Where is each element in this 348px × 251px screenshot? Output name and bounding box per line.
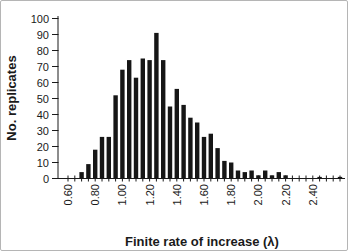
y-tick-label: 20 bbox=[37, 141, 49, 153]
histogram-bar bbox=[154, 33, 158, 179]
y-tick-label: 40 bbox=[37, 109, 49, 121]
histogram-bar bbox=[181, 105, 185, 179]
histogram-bar bbox=[168, 107, 172, 179]
histogram-bar bbox=[209, 134, 213, 179]
x-tick-label: 1.80 bbox=[225, 184, 237, 205]
histogram-bar bbox=[256, 175, 260, 178]
histogram-bar bbox=[277, 172, 281, 178]
x-axis-title: Finite rate of increase (λ) bbox=[125, 234, 279, 249]
histogram-bar bbox=[249, 171, 253, 179]
x-tick-label: 2.40 bbox=[307, 184, 319, 205]
y-tick-label: 70 bbox=[37, 61, 49, 73]
histogram-bar bbox=[270, 175, 274, 178]
histogram-bar bbox=[107, 137, 111, 179]
x-tick-label: 1.40 bbox=[171, 184, 183, 205]
y-tick-label: 50 bbox=[37, 93, 49, 105]
y-tick-label: 90 bbox=[37, 29, 49, 41]
histogram-bar bbox=[236, 171, 240, 179]
x-tick-label: 0.60 bbox=[62, 184, 74, 205]
x-tick-label: 2.00 bbox=[252, 184, 264, 205]
histogram-bar bbox=[141, 59, 145, 179]
histogram-figure: 01020304050607080901000.600.801.001.201.… bbox=[0, 0, 348, 251]
histogram-bar bbox=[100, 137, 104, 179]
histogram-bar bbox=[93, 150, 97, 179]
histogram-bar bbox=[338, 177, 342, 179]
x-tick-label: 1.60 bbox=[198, 184, 210, 205]
histogram-bar bbox=[263, 171, 267, 179]
y-tick-label: 0 bbox=[43, 173, 49, 185]
histogram-bar bbox=[188, 118, 192, 179]
histogram-bar bbox=[215, 148, 219, 178]
histogram-bar bbox=[243, 172, 247, 178]
histogram-bar bbox=[134, 78, 138, 179]
histogram-bar bbox=[79, 172, 83, 178]
y-axis-title: No. replicates bbox=[4, 55, 19, 140]
histogram-bar bbox=[161, 60, 165, 178]
histogram-bar bbox=[127, 60, 131, 178]
histogram-bar bbox=[229, 163, 233, 179]
histogram-bar bbox=[283, 175, 287, 178]
histogram-bar bbox=[222, 161, 226, 179]
x-tick-label: 0.80 bbox=[89, 184, 101, 205]
y-tick-label: 100 bbox=[31, 13, 49, 25]
histogram-bar bbox=[317, 177, 321, 179]
y-tick-label: 30 bbox=[37, 125, 49, 137]
x-tick-label: 1.20 bbox=[144, 184, 156, 205]
histogram-bar bbox=[113, 95, 117, 178]
x-tick-label: 2.20 bbox=[280, 184, 292, 205]
x-tick-label: 1.00 bbox=[116, 184, 128, 205]
y-tick-label: 60 bbox=[37, 77, 49, 89]
histogram-bar bbox=[147, 60, 151, 178]
histogram-bar bbox=[86, 164, 90, 178]
histogram-bar bbox=[175, 89, 179, 179]
histogram-bar bbox=[202, 137, 206, 179]
histogram-bar bbox=[195, 123, 199, 179]
y-tick-label: 10 bbox=[37, 157, 49, 169]
y-tick-label: 80 bbox=[37, 45, 49, 57]
histogram-bar bbox=[120, 70, 124, 179]
histogram-chart: 01020304050607080901000.600.801.001.201.… bbox=[1, 1, 348, 251]
